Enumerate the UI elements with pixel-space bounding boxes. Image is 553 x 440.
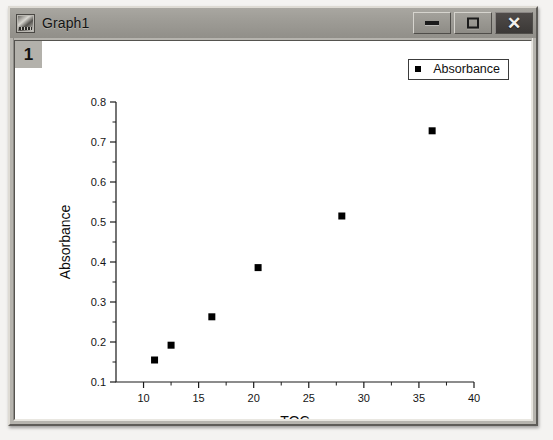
axes-layer <box>110 102 474 388</box>
x-tick-label: 10 <box>137 392 149 404</box>
y-tick-label: 0.5 <box>91 216 106 228</box>
x-tick-label: 35 <box>413 392 425 404</box>
graph-window-icon <box>16 14 35 33</box>
y-tick-label: 0.2 <box>91 336 106 348</box>
maximize-button[interactable] <box>454 12 492 34</box>
data-point <box>429 127 436 134</box>
data-point <box>208 313 215 320</box>
scanned-page: Graph1 ✕ 1 Absorbance <box>0 0 553 440</box>
data-points-layer <box>151 127 436 363</box>
y-tick-label: 0.1 <box>91 376 106 388</box>
y-tick-label: 0.4 <box>91 256 106 268</box>
x-tick-label: 40 <box>468 392 480 404</box>
minimize-button[interactable] <box>413 12 451 34</box>
data-point <box>151 357 158 364</box>
x-axis-title: TOC <box>280 413 309 420</box>
data-point <box>338 213 345 220</box>
maximize-icon <box>467 18 479 29</box>
x-tick-label: 20 <box>248 392 260 404</box>
data-point <box>168 342 175 349</box>
plot-canvas[interactable]: 1 Absorbance 0.10.20.30.40.50.60.70.8101… <box>14 40 532 420</box>
close-icon: ✕ <box>507 15 521 32</box>
x-tick-label: 30 <box>358 392 370 404</box>
y-axis-title: Absorbance <box>57 204 73 279</box>
graph-window: Graph1 ✕ 1 Absorbance <box>8 6 538 426</box>
window-titlebar[interactable]: Graph1 ✕ <box>10 8 536 38</box>
x-tick-label: 25 <box>303 392 315 404</box>
scatter-plot: 0.10.20.30.40.50.60.70.810152025303540TO… <box>15 41 532 420</box>
data-point <box>255 264 262 271</box>
y-tick-label: 0.3 <box>91 296 106 308</box>
axis-labels-layer: 0.10.20.30.40.50.60.70.810152025303540TO… <box>57 96 480 420</box>
window-title: Graph1 <box>42 15 89 31</box>
window-controls: ✕ <box>413 12 533 34</box>
axis-spines <box>116 102 474 382</box>
y-tick-label: 0.7 <box>91 136 106 148</box>
x-tick-label: 15 <box>192 392 204 404</box>
minimize-icon <box>425 21 439 25</box>
y-tick-label: 0.8 <box>91 96 106 108</box>
y-tick-label: 0.6 <box>91 176 106 188</box>
close-button[interactable]: ✕ <box>495 12 533 34</box>
